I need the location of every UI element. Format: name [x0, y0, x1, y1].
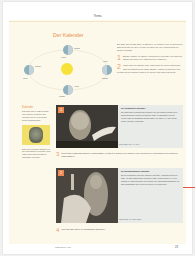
earth-icon — [63, 45, 73, 55]
svg-text:Herbst: Herbst — [61, 56, 66, 58]
svg-text:Herbst: Herbst — [74, 85, 79, 87]
svg-text:Frühling: Frühling — [59, 96, 65, 97]
info-heading: Der gregorianische Kalender — [121, 170, 180, 173]
info-text: Der gregorianische Kalender Da der julia… — [121, 170, 180, 186]
earth-icon — [24, 65, 34, 75]
info-heading: Der julianische Kalender — [121, 107, 180, 110]
task-1: 1 Erkläre mithilfe der Bilder, wodurch d… — [117, 55, 183, 61]
info-block-julian: 1 Der julianische Kalender Die bisherige… — [56, 105, 183, 148]
footer-text: Mathematik im Alltag — [55, 246, 71, 248]
margin-marker — [183, 187, 195, 188]
photo-caption: Julius Cäsar (100–44 v. Chr.) — [119, 144, 140, 145]
task-text: Mit welchen Jahresbruchteilen (Jahreslän… — [61, 152, 177, 157]
earth-icon — [63, 85, 73, 95]
info-block-gregorian: 2 Der gregorianische Kalender Da der jul… — [56, 168, 183, 223]
photo-caption: Papst Gregor XIII. (1502–1585) — [119, 219, 141, 220]
block-badge: 1 — [58, 107, 64, 113]
section-header: Thema — [3, 15, 192, 18]
task-4: 4 War das Jahr 2000 ein Schaltjahr? Begr… — [56, 228, 183, 233]
task-number: 4 — [56, 228, 59, 233]
svg-text:Winter: Winter — [23, 77, 28, 79]
task-number: 1 — [117, 55, 121, 61]
coin-image — [22, 125, 50, 145]
earth-orbit-diagram: Frühling Herbst Sommer Winter Winter Som… — [21, 40, 116, 98]
sidebar-text: Das Wort Kalender stammt von den lateini… — [22, 148, 52, 160]
task-text: War das Jahr 2000 ein Schaltjahr? Begrün… — [61, 228, 105, 230]
task-2: 2 Wann sind die Nächte lang, wann sind s… — [117, 64, 183, 73]
task-3: 3 Mit welchen Jahresbruchteilen (Jahresl… — [56, 152, 183, 158]
task-text: Erkläre mithilfe der Bilder, wodurch der… — [123, 55, 182, 60]
svg-text:Frühling: Frühling — [74, 48, 80, 49]
page-number: 23 — [175, 245, 178, 249]
earth-icon — [102, 65, 112, 75]
portrait-photo — [56, 105, 118, 148]
pope-photo — [56, 168, 118, 223]
textbook-page: Thema Der Kalender Frühling Herbst Somme… — [3, 2, 192, 254]
block-badge: 2 — [58, 170, 64, 176]
intro-text: Ein Jahr dauert 365 Tage, 5 Stunden, 48 … — [117, 43, 183, 52]
sidebar-heading: Kalender — [22, 106, 52, 109]
svg-text:Sommer: Sommer — [35, 66, 41, 67]
sidebar-box: Kalender Das Jahr wird in zwölf Monate u… — [22, 106, 52, 159]
svg-text:Winter: Winter — [103, 60, 108, 62]
info-body: Da der julianische Kalender etwas zu lan… — [121, 174, 179, 185]
task-text: Wann sind die Nächte lang, wann sind sie… — [117, 64, 180, 72]
page-title: Der Kalender — [53, 32, 84, 38]
intro-column: Ein Jahr dauert 365 Tage, 5 Stunden, 48 … — [117, 43, 183, 74]
sun-icon — [61, 63, 73, 75]
info-text: Der julianische Kalender Die bisherigen … — [121, 107, 180, 123]
header-divider — [9, 21, 186, 22]
task-number: 3 — [56, 152, 59, 157]
svg-text:Sommer: Sommer — [102, 78, 108, 79]
info-body: Die bisherigen Mondkalender wurden von d… — [121, 111, 177, 122]
task-number: 2 — [117, 64, 121, 70]
sidebar-text: Das Jahr wird in zwölf Monate und Wochen… — [22, 110, 52, 122]
